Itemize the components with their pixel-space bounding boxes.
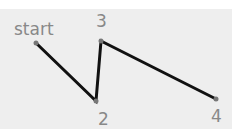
label-2: 2 <box>98 111 109 128</box>
point-4-marker <box>214 97 219 102</box>
point-start-marker <box>34 41 39 46</box>
label-3: 3 <box>96 13 107 30</box>
label-start: start <box>14 21 54 38</box>
label-4: 4 <box>211 108 222 125</box>
point-2-marker <box>94 99 99 104</box>
point-3-marker <box>99 39 104 44</box>
